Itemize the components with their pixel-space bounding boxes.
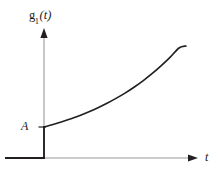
x-axis-arrowhead-icon <box>188 154 198 161</box>
y-axis-label-subscript: 1 <box>35 16 39 26</box>
exponential-curve <box>44 46 186 127</box>
figure-container: g1(t) t A <box>0 0 218 177</box>
x-axis-label: t <box>205 151 208 163</box>
y-axis-label-argument: (t) <box>40 8 52 22</box>
y-axis-label: g1(t) <box>29 9 51 24</box>
y-axis-arrowhead-icon <box>40 28 47 38</box>
intercept-label: A <box>21 120 28 132</box>
plot-canvas <box>0 0 218 177</box>
